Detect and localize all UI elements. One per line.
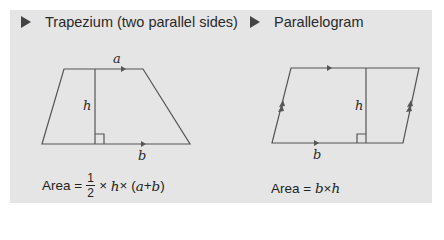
fraction-one-half: 12 — [86, 172, 95, 199]
label-b: b — [313, 147, 321, 162]
trapezium-formula: Area = 12 × h × (a + b) — [42, 172, 165, 199]
parallel-arrow-icon — [327, 65, 332, 71]
right-angle-marker — [95, 134, 104, 144]
label-b: b — [138, 148, 146, 163]
right-angle-marker — [357, 134, 366, 143]
parallel-arrow-icon — [314, 140, 319, 146]
double-arrow-icon — [279, 100, 285, 107]
parallel-arrow-icon — [141, 141, 146, 147]
parallelogram-formula: Area = b × h — [271, 180, 340, 196]
parallelogram-shape — [272, 68, 419, 143]
label-a: a — [113, 51, 121, 66]
parallel-arrow-icon — [121, 66, 126, 72]
trapezium-shape — [42, 69, 190, 144]
label-h: h — [83, 98, 91, 113]
label-h: h — [355, 98, 363, 113]
